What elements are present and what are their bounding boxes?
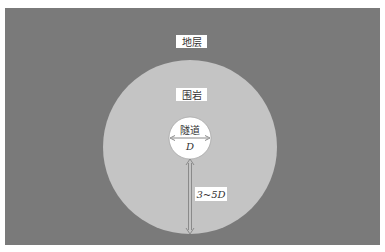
surrounding-rock-label: 围岩 (182, 89, 202, 101)
range-label: 3~5D (196, 189, 225, 200)
tunnel-surrounding-rock-diagram: 地层 围岩 隧道 D 3~5D (0, 0, 385, 252)
tunnel-label: 隧道 (180, 124, 200, 136)
diameter-label: D (185, 141, 194, 152)
stratum-label: 地层 (182, 36, 202, 48)
